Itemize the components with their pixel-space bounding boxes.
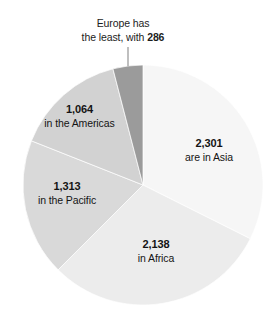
slice-value-pacific: 1,313 xyxy=(12,180,122,194)
slice-label-asia: 2,301 are in Asia xyxy=(160,137,258,164)
slice-value-asia: 2,301 xyxy=(160,137,258,151)
slice-label-americas: 1,064 in the Americas xyxy=(22,103,137,130)
europe-callout-line-2: the least, with 286 xyxy=(48,31,198,45)
pie-chart: Europe has the least, with 286 2,301 are… xyxy=(0,0,274,328)
europe-callout-line-1: Europe has xyxy=(48,17,198,31)
slice-value-africa: 2,138 xyxy=(102,238,210,252)
slice-caption-pacific: in the Pacific xyxy=(12,194,122,208)
slice-caption-asia: are in Asia xyxy=(160,151,258,165)
slice-value-americas: 1,064 xyxy=(22,103,137,117)
europe-callout-prefix: the least, with xyxy=(82,31,148,43)
europe-callout-annotation: Europe has the least, with 286 xyxy=(48,17,198,44)
slice-label-pacific: 1,313 in the Pacific xyxy=(12,180,122,207)
pie-chart-canvas xyxy=(0,0,274,328)
slice-label-africa: 2,138 in Africa xyxy=(102,238,210,265)
slice-caption-africa: in Africa xyxy=(102,252,210,266)
europe-callout-value: 286 xyxy=(147,31,164,43)
slice-caption-americas: in the Americas xyxy=(22,117,137,131)
